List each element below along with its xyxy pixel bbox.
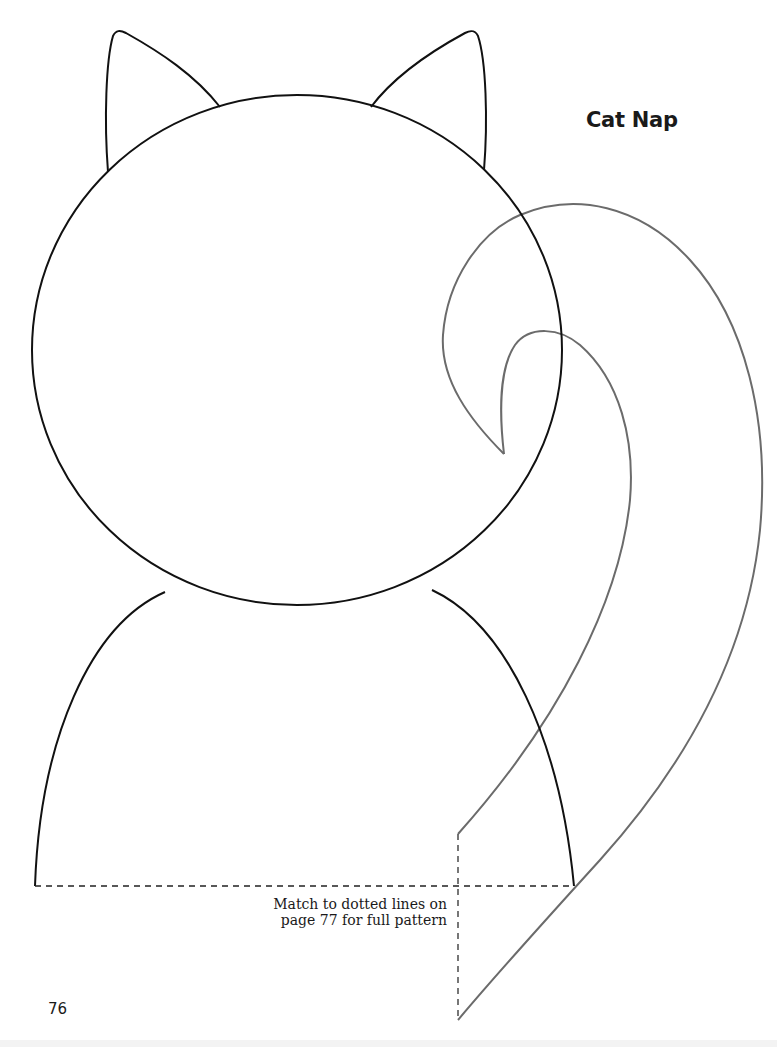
page-bottom-edge bbox=[0, 1040, 777, 1047]
right-ear bbox=[371, 31, 486, 170]
page-number: 76 bbox=[48, 1000, 67, 1018]
page-title: Cat Nap bbox=[586, 108, 678, 132]
match-instructions-line-2: page 77 for full pattern bbox=[240, 912, 447, 928]
left-ear bbox=[106, 31, 220, 172]
cat-pattern-illustration bbox=[0, 0, 777, 1047]
head-pattern-piece bbox=[32, 95, 562, 605]
match-instructions-line-1: Match to dotted lines on bbox=[240, 896, 447, 912]
ears bbox=[106, 31, 486, 172]
body-pattern-piece bbox=[35, 590, 574, 886]
pattern-page: Cat Nap Match to dotted lines on page 77… bbox=[0, 0, 777, 1047]
match-instructions: Match to dotted lines on page 77 for ful… bbox=[240, 896, 447, 928]
tail-pattern-piece bbox=[443, 204, 762, 1020]
